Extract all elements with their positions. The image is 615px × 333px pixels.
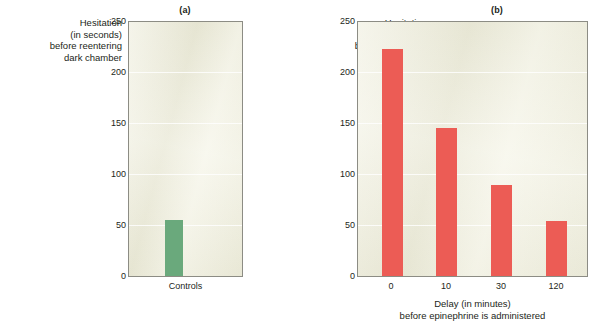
- figure-two-panel-bar-charts: (a) Hesitation (in seconds) before reent…: [0, 0, 615, 333]
- panel-b-x-caption-line-2: before epinephrine is administered: [357, 310, 588, 322]
- bar-controls: [165, 220, 183, 276]
- panel-b-y-tick-150: 150: [331, 119, 355, 128]
- panel-b-y-tick-0: 0: [331, 272, 355, 281]
- panel-b-y-tick-200: 200: [331, 68, 355, 77]
- panel-b-plot-area: [357, 21, 588, 277]
- panel-a-gridline-150: [129, 123, 242, 124]
- panel-a-y-tick-50: 50: [102, 221, 126, 230]
- panel-a-x-tick-controls: Controls: [153, 281, 218, 291]
- panel-a-title: (a): [155, 5, 215, 15]
- bar-delay-120: [546, 221, 567, 276]
- bar-delay-10: [436, 128, 457, 276]
- panel-b-x-caption-line-1: Delay (in minutes): [357, 298, 588, 310]
- panel-b: (b) Hesitation (in seconds) before reent…: [300, 0, 615, 333]
- panel-a-plot-area: [128, 21, 243, 277]
- panel-a-gridline-100: [129, 174, 242, 175]
- bar-delay-30: [491, 185, 512, 276]
- panel-a-y-tick-150: 150: [102, 119, 126, 128]
- panel-a-y-tick-labels: 250 200 150 100 50 0: [102, 15, 126, 280]
- panel-a-y-tick-100: 100: [102, 170, 126, 179]
- panel-a-gridline-200: [129, 72, 242, 73]
- panel-b-x-tick-30: 30: [481, 281, 521, 291]
- panel-b-y-tick-labels: 250 200 150 100 50 0: [331, 15, 355, 280]
- panel-b-y-tick-250: 250: [331, 17, 355, 26]
- panel-b-y-tick-50: 50: [331, 221, 355, 230]
- panel-b-y-tick-100: 100: [331, 170, 355, 179]
- panel-b-x-axis-caption: Delay (in minutes) before epinephrine is…: [357, 298, 588, 321]
- panel-b-x-tick-0: 0: [371, 281, 411, 291]
- panel-b-x-tick-10: 10: [426, 281, 466, 291]
- panel-b-x-tick-120: 120: [536, 281, 576, 291]
- panel-a-y-tick-200: 200: [102, 68, 126, 77]
- panel-a-y-tick-0: 0: [102, 272, 126, 281]
- panel-b-x-tick-labels: 0 10 30 120: [357, 281, 588, 295]
- panel-a-x-tick-labels: Controls: [128, 281, 243, 295]
- panel-a-gridline-50: [129, 225, 242, 226]
- panel-a-y-tick-250: 250: [102, 17, 126, 26]
- panel-a: (a) Hesitation (in seconds) before reent…: [0, 0, 300, 333]
- panel-b-title: (b): [467, 5, 527, 15]
- bar-delay-0: [382, 49, 403, 276]
